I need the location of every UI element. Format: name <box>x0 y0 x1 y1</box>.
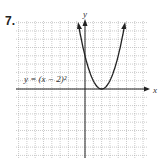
x-axis-arrow-icon <box>144 87 150 92</box>
graph: x y y = (x − 2)² <box>0 0 165 162</box>
x-axis-label: x <box>152 85 157 95</box>
equation-label: y = (x − 2)² <box>23 74 67 84</box>
y-axis-label: y <box>82 9 87 19</box>
